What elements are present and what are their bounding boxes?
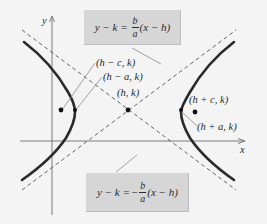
- lower-eq-sign: −: [131, 186, 138, 198]
- y-axis-label: y: [42, 16, 47, 27]
- right-branch: [181, 42, 234, 180]
- lower-asymptote-equation-box: y − k = − b a (x − h): [86, 173, 189, 212]
- center-point: [126, 108, 131, 113]
- upper-eq-lhs: y − k =: [95, 21, 128, 33]
- right-vertex-point: [179, 108, 183, 112]
- right-focus-point: [193, 110, 198, 115]
- hyperbola-diagram: y x (h − c, k) (h − a, k) (h, k) (h + c,…: [0, 0, 267, 224]
- right-vertex-label: (h + a, k): [197, 122, 237, 133]
- leader-upper-box: [132, 48, 161, 64]
- upper-eq-rhs: (x − h): [140, 21, 171, 33]
- lower-eq-fraction: b a: [139, 181, 146, 204]
- lower-eq-rhs: (x − h): [147, 186, 178, 198]
- leader-left-focus: [62, 63, 95, 110]
- points: [59, 108, 198, 115]
- upper-eq-frac-den: a: [133, 28, 138, 39]
- left-branch: [22, 42, 75, 180]
- leader-left-vertex: [75, 77, 102, 111]
- upper-eq-frac-num: b: [132, 16, 139, 28]
- left-focus-point: [59, 108, 64, 113]
- left-focus-label: (h − c, k): [96, 58, 135, 69]
- x-axis-label: x: [240, 145, 245, 156]
- left-vertex-label: (h − a, k): [103, 72, 143, 83]
- upper-eq-fraction: b a: [132, 16, 139, 39]
- upper-asymptote-equation-box: y − k = b a (x − h): [84, 10, 181, 45]
- leader-lower-box: [116, 155, 137, 172]
- lower-eq-lhs: y − k =: [97, 186, 130, 198]
- lower-eq-frac-num: b: [139, 181, 146, 193]
- lower-eq-frac-den: a: [140, 193, 145, 204]
- right-focus-label: (h + c, k): [189, 95, 228, 106]
- center-label: (h, k): [117, 88, 139, 99]
- left-vertex-point: [73, 108, 77, 112]
